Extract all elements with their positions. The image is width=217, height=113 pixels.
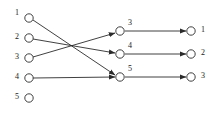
- graph-node-m3[interactable]: [116, 27, 124, 35]
- node-label-r1: 1: [201, 26, 205, 34]
- graph-node-r2[interactable]: [187, 50, 195, 58]
- graph-node-l3[interactable]: [25, 54, 33, 62]
- edges-layer: [33, 20, 186, 78]
- graph-edge: [33, 39, 115, 53]
- graph-node-m4[interactable]: [116, 50, 124, 58]
- graph-node-l4[interactable]: [25, 74, 33, 82]
- graph-edge: [33, 77, 115, 78]
- node-label-l4: 4: [15, 73, 19, 81]
- graph-node-m5[interactable]: [116, 73, 124, 81]
- graph-edge: [33, 20, 115, 75]
- node-label-l3: 3: [15, 53, 19, 61]
- node-label-l1: 1: [15, 9, 19, 17]
- graph-node-l5[interactable]: [25, 94, 33, 102]
- node-label-m4: 4: [128, 42, 132, 50]
- node-label-r2: 2: [201, 49, 205, 57]
- node-label-r3: 3: [201, 72, 205, 80]
- graph-edge: [33, 33, 115, 57]
- node-label-m3: 3: [128, 19, 132, 27]
- node-label-m5: 5: [128, 65, 132, 73]
- bipartite-graph-diagram: 12345345123: [0, 0, 217, 113]
- nodes-layer: [25, 14, 195, 102]
- graph-canvas: [0, 0, 217, 113]
- graph-node-l1[interactable]: [25, 14, 33, 22]
- graph-node-r1[interactable]: [187, 27, 195, 35]
- graph-node-r3[interactable]: [187, 73, 195, 81]
- graph-node-l2[interactable]: [25, 34, 33, 42]
- node-label-l2: 2: [15, 33, 19, 41]
- node-label-l5: 5: [15, 93, 19, 101]
